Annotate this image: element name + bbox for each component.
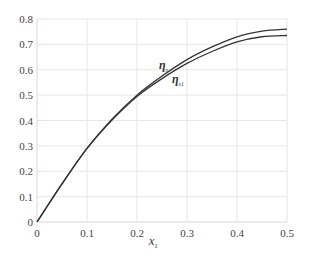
- tick-labels: 00.10.20.30.40.500.10.20.30.40.50.60.70.…: [19, 13, 294, 239]
- y-tick-label: 0.2: [19, 165, 33, 177]
- annotation-eta-s: ηs: [159, 58, 169, 73]
- line-chart: 00.10.20.30.40.500.10.20.30.40.50.60.70.…: [0, 0, 310, 261]
- y-tick-label: 0.7: [19, 38, 33, 50]
- y-tick-label: 0.8: [19, 13, 33, 25]
- x-tick-label: 0.5: [280, 227, 294, 239]
- x-tick-label: 0.3: [180, 227, 194, 239]
- y-tick-label: 0.3: [19, 140, 33, 152]
- annotation-eta-s1: ηs1: [172, 72, 184, 87]
- grid-lines: [37, 19, 287, 222]
- y-tick-label: 0.5: [19, 89, 33, 101]
- y-tick-label: 0.6: [19, 64, 33, 76]
- x-tick-label: 0.1: [80, 227, 94, 239]
- x-tick-label: 0.2: [130, 227, 144, 239]
- x-tick-label: 0.4: [230, 227, 244, 239]
- y-tick-label: 0.1: [19, 191, 33, 203]
- y-tick-label: 0.4: [19, 115, 33, 127]
- x-tick-label: 0: [34, 227, 40, 239]
- y-tick-label: 0: [28, 216, 34, 228]
- x-axis-label: x1: [148, 234, 158, 250]
